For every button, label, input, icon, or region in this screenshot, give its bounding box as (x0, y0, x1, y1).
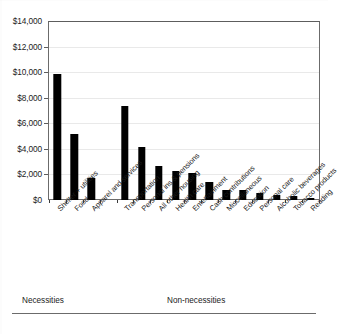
x-axis-tick-mark (302, 200, 303, 203)
x-axis-tick-mark (66, 200, 67, 203)
x-axis-tick-mark (218, 200, 219, 203)
bar-slot[interactable] (66, 22, 83, 200)
bar-slot[interactable] (268, 22, 285, 200)
x-axis-tick-mark (133, 200, 134, 203)
x-axis-tick-mark (49, 200, 50, 203)
x-axis-tick-mark (235, 200, 236, 203)
group-label-non-necessities: Non-necessities (167, 296, 225, 306)
x-axis-tick-mark (319, 200, 320, 203)
bar-slot[interactable] (150, 22, 167, 200)
y-axis-tick-label: $4,000 (17, 145, 42, 153)
y-axis-tick-label: $10,000 (13, 68, 42, 76)
y-axis-tick-label: $0 (33, 196, 42, 204)
bar-slot[interactable] (218, 22, 235, 200)
y-axis-tick-label: $12,000 (13, 42, 42, 50)
x-axis-tick-mark (117, 200, 118, 203)
bar[interactable] (54, 74, 61, 200)
bar-slot[interactable] (252, 22, 269, 200)
y-axis-tick-label: $8,000 (17, 94, 42, 102)
x-axis-tick-mark (201, 200, 202, 203)
x-axis-tick-mark (167, 200, 168, 203)
bar-slot[interactable] (49, 22, 66, 200)
y-axis-tick-label: $2,000 (17, 170, 42, 178)
group-annotation-band: Necessities Non-necessities (0, 296, 328, 334)
x-axis-tick-mark (184, 200, 185, 203)
group-label-necessities: Necessities (22, 296, 64, 306)
x-axis-tick-mark (150, 200, 151, 203)
x-axis-tick-mark (285, 200, 286, 203)
y-axis-tick-label: $6,000 (17, 119, 42, 127)
x-axis-tick-mark (268, 200, 269, 203)
bar-slot[interactable] (285, 22, 302, 200)
bar-slot[interactable] (133, 22, 150, 200)
x-axis-tick-mark (252, 200, 253, 203)
x-axis-tick-mark (100, 200, 101, 203)
bar-slot[interactable] (201, 22, 218, 200)
x-axis-tick-mark (83, 200, 84, 203)
group-divider-rule (12, 313, 316, 314)
y-axis: $0$2,000$4,000$6,000$8,000$10,000$12,000… (0, 0, 48, 334)
y-axis-tick-label: $14,000 (13, 17, 42, 25)
